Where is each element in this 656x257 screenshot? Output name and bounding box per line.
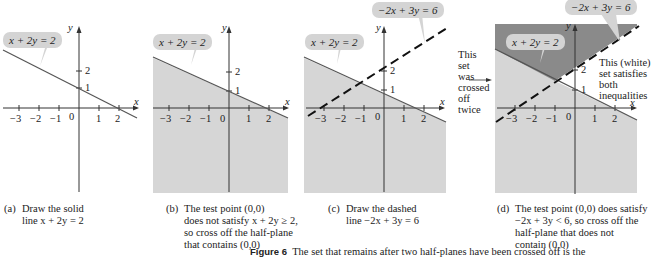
x-tick-label: 1	[592, 113, 597, 126]
x-tick-label: −2	[335, 113, 346, 126]
x-tick-label: 0	[566, 111, 571, 124]
x-tick-label: 2	[421, 113, 426, 126]
y-tick-label: 1	[85, 82, 90, 95]
x-tick-label: 2	[266, 113, 271, 126]
y-axis-arrow-icon	[77, 26, 82, 33]
y-tick-label: 2	[85, 65, 90, 78]
side-note-crossed-twice: This set was crossed off twice	[458, 49, 490, 115]
x-tick-label: −1	[50, 113, 61, 126]
y-tick-label: 2	[235, 66, 240, 79]
x-tick-label: 2	[612, 113, 617, 126]
panel-b-graph	[153, 26, 289, 193]
x-tick-label: −3	[315, 113, 326, 126]
x-tick-label: −1	[546, 113, 557, 126]
y-axis-arrow-icon	[227, 26, 232, 33]
panel-a-graph	[3, 26, 139, 192]
equation-label-dashed: −2x + 3y = 6	[372, 2, 444, 18]
x-axis-label: x	[285, 96, 290, 109]
x-tick-label: −3	[506, 113, 517, 126]
shaded-region	[153, 58, 288, 193]
x-tick-label: −2	[526, 113, 537, 126]
y-tick-label: 1	[581, 84, 586, 97]
x-tick-label: 2	[115, 113, 120, 126]
y-axis-label: y	[222, 22, 227, 35]
x-tick-label: 1	[246, 113, 251, 126]
x-tick-label: 0	[220, 113, 225, 126]
y-tick-label: 2	[581, 64, 586, 77]
equation-label-solid: x + 2y = 2	[3, 32, 62, 48]
y-axis-arrow-icon	[382, 26, 387, 33]
x-tick-label: −3	[10, 113, 21, 126]
x-axis-label: x	[134, 96, 139, 109]
y-axis-label: y	[376, 22, 381, 35]
x-axis-label: x	[440, 96, 445, 109]
x-tick-label: 0	[375, 111, 380, 124]
equation-label-solid: x + 2y = 2	[305, 34, 364, 50]
x-tick-label: −1	[200, 113, 211, 126]
equation-label-dashed: −2x + 3y = 6	[565, 0, 637, 15]
figure-caption: Figure 6 The set that remains after two …	[250, 246, 585, 257]
x-tick-label: −2	[30, 113, 41, 126]
x-tick-label: 1	[96, 113, 101, 126]
y-tick-label: 1	[390, 84, 395, 97]
x-tick-label: −3	[160, 113, 171, 126]
y-tick-label: 1	[235, 85, 240, 98]
x-tick-label: −2	[180, 113, 191, 126]
x-tick-label: 1	[401, 113, 406, 126]
x-tick-label: −1	[355, 113, 366, 126]
side-note-solution-set: This (white) set satisfies both inequali…	[599, 57, 651, 101]
y-tick-label: 2	[390, 65, 395, 78]
y-axis-label: y	[68, 22, 73, 35]
equation-label-solid: x + 2y = 2	[153, 34, 212, 50]
x-tick-label: 0	[69, 111, 74, 124]
y-axis-label: y	[566, 20, 571, 33]
equation-label-solid: x + 2y = 2	[506, 34, 565, 50]
